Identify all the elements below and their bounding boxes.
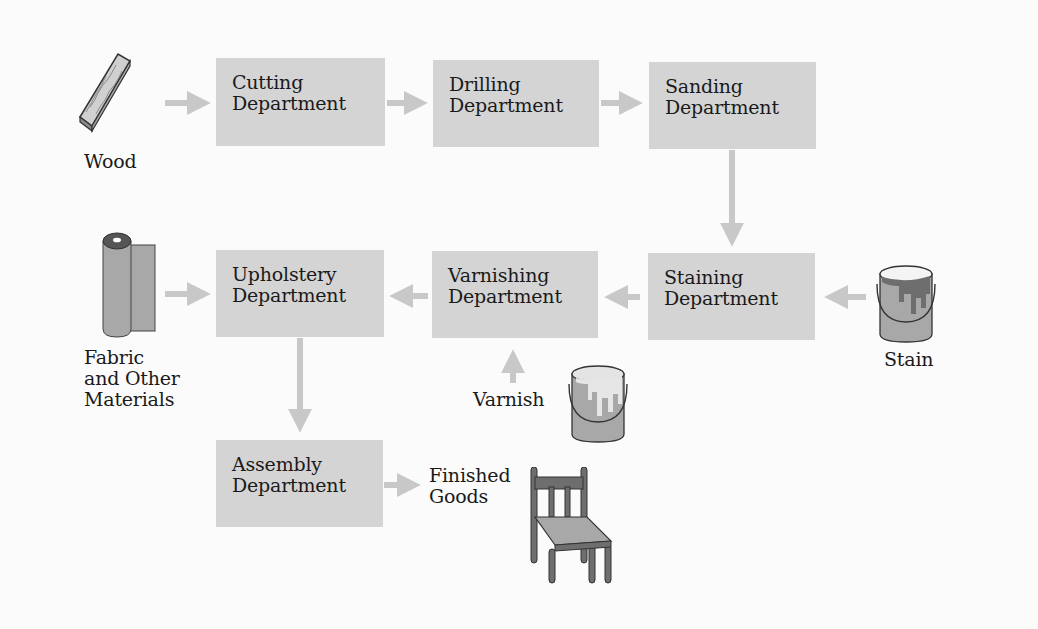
department-label: Department xyxy=(232,475,383,496)
drilling-department-box: Drilling Department xyxy=(433,60,599,147)
department-label: Department xyxy=(664,288,815,309)
assembly-label: Assembly xyxy=(232,454,383,475)
department-label: Department xyxy=(232,93,385,114)
finished-label-line2: Goods xyxy=(429,486,510,507)
drilling-label: Drilling xyxy=(449,74,599,95)
department-label: Department xyxy=(232,285,384,306)
paint-can-icon xyxy=(566,364,632,444)
assembly-department-box: Assembly Department xyxy=(216,440,383,527)
staining-label: Staining xyxy=(664,267,815,288)
department-label: Department xyxy=(448,286,598,307)
department-label: Department xyxy=(449,95,599,116)
upholstery-department-box: Upholstery Department xyxy=(216,250,384,337)
sanding-department-box: Sanding Department xyxy=(649,62,816,149)
wood-plank-icon xyxy=(78,52,138,134)
fabric-label: Fabric and Other Materials xyxy=(84,347,180,410)
stain-label: Stain xyxy=(884,349,933,370)
finished-goods-label: Finished Goods xyxy=(429,465,510,507)
varnishing-department-box: Varnishing Department xyxy=(432,251,598,338)
fabric-label-line3: Materials xyxy=(84,389,180,410)
cutting-department-box: Cutting Department xyxy=(216,58,385,146)
varnishing-label: Varnishing xyxy=(448,265,598,286)
paint-can-icon xyxy=(874,264,940,344)
cutting-label: Cutting xyxy=(232,72,385,93)
chair-icon xyxy=(529,467,615,585)
varnish-label: Varnish xyxy=(473,389,544,410)
fabric-label-line1: Fabric xyxy=(84,347,180,368)
finished-label-line1: Finished xyxy=(429,465,510,486)
upholstery-label: Upholstery xyxy=(232,264,384,285)
wood-label: Wood xyxy=(84,151,136,172)
fabric-roll-icon xyxy=(101,231,157,339)
staining-department-box: Staining Department xyxy=(648,253,815,340)
department-label: Department xyxy=(665,97,816,118)
fabric-label-line2: and Other xyxy=(84,368,180,389)
sanding-label: Sanding xyxy=(665,76,816,97)
